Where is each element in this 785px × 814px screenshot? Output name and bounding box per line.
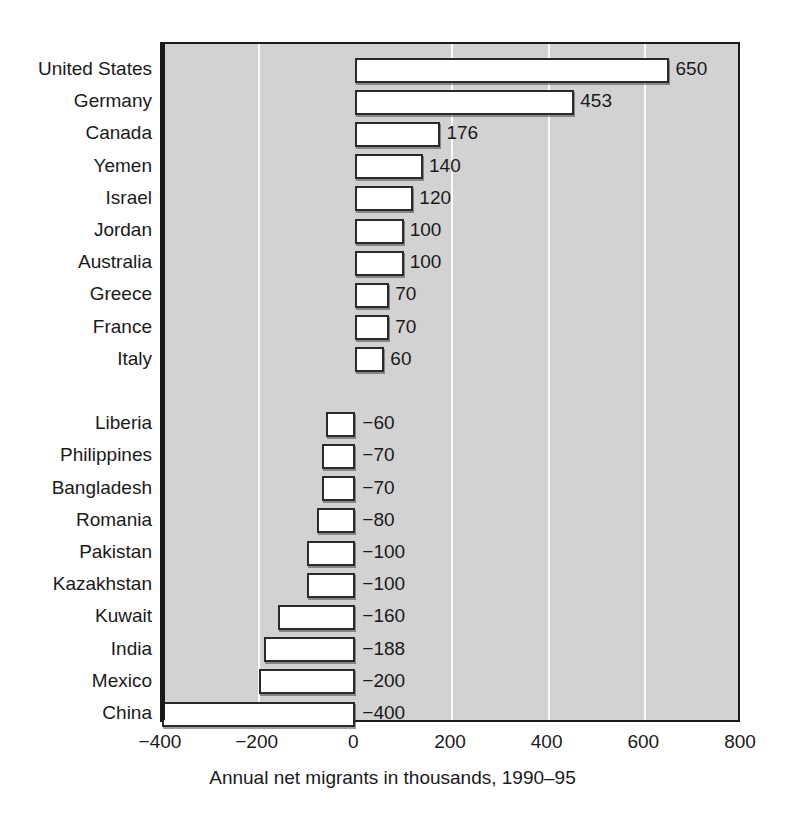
bar-value-label: 140 bbox=[429, 156, 461, 175]
gridline-200 bbox=[451, 44, 453, 720]
category-label-france: France bbox=[93, 317, 152, 336]
bar-value-label: −400 bbox=[362, 703, 405, 722]
bar-value-label: 120 bbox=[419, 188, 451, 207]
x-tick-label-0: 0 bbox=[348, 732, 359, 751]
migration-bar-chart: United StatesGermanyCanadaYemenIsraelJor… bbox=[0, 0, 785, 814]
bar-value-label: −60 bbox=[362, 413, 394, 432]
bar bbox=[355, 283, 389, 308]
plot-area bbox=[160, 42, 740, 722]
category-label-india: India bbox=[111, 639, 152, 658]
category-label-pakistan: Pakistan bbox=[79, 542, 152, 561]
bar-value-label: 70 bbox=[395, 284, 416, 303]
x-tick-label--200: −200 bbox=[235, 732, 278, 751]
bar-value-label: −100 bbox=[362, 542, 405, 561]
category-label-kuwait: Kuwait bbox=[95, 606, 152, 625]
category-label-greece: Greece bbox=[90, 284, 152, 303]
x-tick-label-600: 600 bbox=[627, 732, 659, 751]
category-label-australia: Australia bbox=[78, 252, 152, 271]
bar bbox=[355, 347, 384, 372]
category-label-canada: Canada bbox=[85, 123, 152, 142]
bar bbox=[355, 90, 574, 115]
bar bbox=[264, 637, 355, 662]
bar bbox=[322, 476, 356, 501]
category-label-jordan: Jordan bbox=[94, 220, 152, 239]
x-tick-label--400: −400 bbox=[139, 732, 182, 751]
category-label-bangladesh: Bangladesh bbox=[52, 478, 152, 497]
bar bbox=[278, 605, 355, 630]
bar bbox=[355, 122, 440, 147]
bar bbox=[355, 315, 389, 340]
category-label-liberia: Liberia bbox=[95, 413, 152, 432]
zero-axis-line bbox=[162, 44, 165, 720]
gridline--200 bbox=[258, 44, 260, 720]
bar bbox=[355, 251, 403, 276]
bar-value-label: 650 bbox=[676, 59, 708, 78]
bar-value-label: 176 bbox=[446, 123, 478, 142]
bar bbox=[326, 412, 355, 437]
category-label-united-states: United States bbox=[38, 59, 152, 78]
category-label-mexico: Mexico bbox=[92, 671, 152, 690]
bar bbox=[307, 573, 355, 598]
bar-value-label: 60 bbox=[390, 349, 411, 368]
category-label-romania: Romania bbox=[76, 510, 152, 529]
bar bbox=[355, 219, 403, 244]
bar bbox=[162, 702, 355, 727]
category-label-germany: Germany bbox=[74, 91, 152, 110]
bar-value-label: 100 bbox=[410, 252, 442, 271]
bar bbox=[317, 508, 356, 533]
bar-value-label: 100 bbox=[410, 220, 442, 239]
category-label-italy: Italy bbox=[117, 349, 152, 368]
gridline-600 bbox=[644, 44, 646, 720]
bar bbox=[355, 58, 669, 83]
bar bbox=[355, 186, 413, 211]
bar bbox=[259, 669, 356, 694]
x-tick-label-400: 400 bbox=[531, 732, 563, 751]
x-tick-label-800: 800 bbox=[724, 732, 756, 751]
bar bbox=[307, 541, 355, 566]
bar-value-label: −70 bbox=[362, 478, 394, 497]
category-label-philippines: Philippines bbox=[60, 445, 152, 464]
bar-value-label: −80 bbox=[362, 510, 394, 529]
bar-value-label: −188 bbox=[362, 639, 405, 658]
bar-value-label: −100 bbox=[362, 574, 405, 593]
gridline-400 bbox=[548, 44, 550, 720]
x-tick-label-200: 200 bbox=[434, 732, 466, 751]
bar-value-label: −200 bbox=[362, 671, 405, 690]
category-label-china: China bbox=[102, 703, 152, 722]
bar-value-label: 70 bbox=[395, 317, 416, 336]
bar bbox=[355, 154, 423, 179]
bar-value-label: 453 bbox=[580, 91, 612, 110]
x-axis-title: Annual net migrants in thousands, 1990–9… bbox=[0, 768, 785, 787]
bar-value-label: −160 bbox=[362, 606, 405, 625]
bar-value-label: −70 bbox=[362, 445, 394, 464]
category-label-kazakhstan: Kazakhstan bbox=[53, 574, 152, 593]
category-label-israel: Israel bbox=[106, 188, 152, 207]
bar bbox=[322, 444, 356, 469]
category-label-yemen: Yemen bbox=[94, 156, 152, 175]
